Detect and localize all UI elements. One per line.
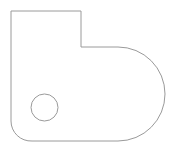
technical-drawing-svg [0, 0, 173, 154]
drawing-canvas [0, 0, 173, 154]
